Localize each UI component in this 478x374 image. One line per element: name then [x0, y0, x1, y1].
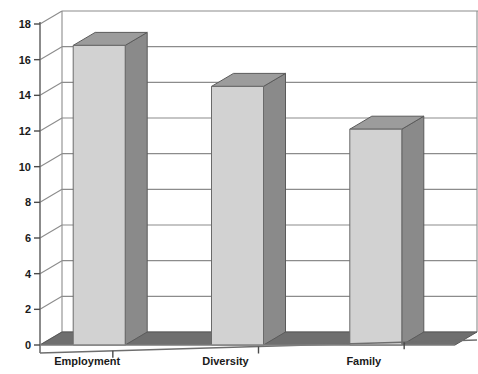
y-tick-label-2: 2: [25, 303, 31, 315]
y-tick-label-18: 18: [19, 18, 31, 30]
bar-employment: [73, 32, 147, 345]
y-axis-ticks: [34, 24, 40, 345]
chart-canvas: 024681012141618 EmploymentDiversityFamil…: [0, 0, 478, 374]
bar-diversity: [212, 73, 286, 345]
side-wall-rib-8: [40, 189, 62, 202]
side-wall-rib-6: [40, 225, 62, 238]
y-tick-label-16: 16: [19, 54, 31, 66]
side-wall-rib-18: [40, 11, 62, 24]
bar-side-face: [125, 32, 147, 345]
side-wall-rib-12: [40, 118, 62, 131]
y-tick-label-0: 0: [25, 339, 31, 351]
y-tick-label-8: 8: [25, 196, 31, 208]
y-tick-label-4: 4: [25, 268, 32, 280]
x-label-family: Family: [346, 355, 382, 367]
side-wall-rib-14: [40, 82, 62, 95]
side-wall-rib-4: [40, 261, 62, 274]
side-wall-rib-10: [40, 154, 62, 167]
x-label-diversity: Diversity: [202, 355, 249, 367]
bar-front-face: [73, 45, 125, 345]
bar-family: [350, 116, 424, 345]
side-wall-rib-16: [40, 47, 62, 60]
bars: [73, 32, 424, 345]
bar-side-face: [264, 73, 286, 345]
x-axis-category-labels: EmploymentDiversityFamily: [54, 355, 382, 367]
bar-front-face: [350, 129, 402, 345]
bar-chart-figure: 024681012141618 EmploymentDiversityFamil…: [0, 0, 478, 374]
y-tick-label-12: 12: [19, 125, 31, 137]
bar-front-face: [212, 86, 264, 345]
y-tick-label-6: 6: [25, 232, 31, 244]
y-tick-label-10: 10: [19, 161, 31, 173]
y-axis-tick-labels: 024681012141618: [19, 18, 32, 351]
y-tick-label-14: 14: [19, 89, 32, 101]
bar-side-face: [402, 116, 424, 345]
x-label-employment: Employment: [54, 355, 120, 367]
side-wall-rib-2: [40, 296, 62, 309]
